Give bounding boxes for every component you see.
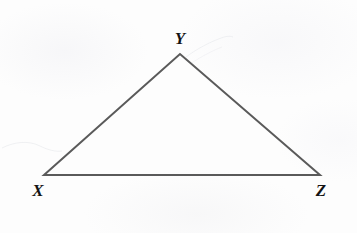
geometry-figure: X Y Z <box>0 0 357 233</box>
vertex-label-x: X <box>32 182 43 199</box>
triangle-xyz-outline <box>44 54 320 175</box>
stray-marks-group <box>2 36 233 151</box>
left-smudge-mark <box>2 142 62 151</box>
apex-smudge-mark-secondary <box>190 47 222 64</box>
vertex-label-y: Y <box>175 30 185 47</box>
vertex-label-z: Z <box>316 182 326 199</box>
apex-smudge-mark <box>186 36 233 57</box>
